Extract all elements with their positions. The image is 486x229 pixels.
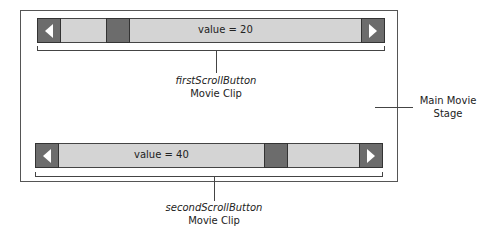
second-bracket-right-tick bbox=[382, 172, 383, 177]
right-arrow-icon bbox=[366, 149, 376, 163]
first-instance-name: firstScrollButton bbox=[166, 74, 266, 87]
first-bracket-right-tick bbox=[384, 46, 385, 51]
stage-label-line2: Stage bbox=[410, 107, 486, 120]
first-bracket-left-tick bbox=[37, 46, 38, 51]
second-scroll-button-clip: value = 40 bbox=[35, 143, 383, 168]
first-value-text: value = 20 bbox=[198, 24, 253, 35]
stage-caption: Main Movie Stage bbox=[410, 94, 486, 120]
second-instance-name: secondScrollButton bbox=[159, 201, 269, 214]
first-scroll-button-clip: value = 20 bbox=[37, 18, 385, 43]
first-scroll-thumb[interactable] bbox=[106, 18, 130, 43]
first-right-arrow-button[interactable] bbox=[361, 18, 385, 43]
second-left-arrow-button[interactable] bbox=[35, 143, 59, 168]
second-type-label: Movie Clip bbox=[159, 214, 269, 227]
stage-label-line1: Main Movie bbox=[410, 94, 486, 107]
left-arrow-icon bbox=[42, 149, 52, 163]
second-bracket-stem bbox=[214, 177, 215, 201]
second-bracket-line bbox=[35, 176, 383, 177]
stage-pointer-line bbox=[375, 107, 413, 108]
first-clip-caption: firstScrollButton Movie Clip bbox=[166, 74, 266, 100]
second-right-arrow-button[interactable] bbox=[359, 143, 383, 168]
first-bracket-line bbox=[37, 50, 385, 51]
second-bracket-left-tick bbox=[35, 172, 36, 177]
second-scroll-thumb[interactable] bbox=[264, 143, 288, 168]
right-arrow-icon bbox=[368, 24, 378, 38]
first-left-arrow-button[interactable] bbox=[37, 18, 61, 43]
first-bracket-stem bbox=[216, 51, 217, 73]
second-value-text: value = 40 bbox=[134, 149, 189, 160]
first-type-label: Movie Clip bbox=[166, 87, 266, 100]
second-clip-caption: secondScrollButton Movie Clip bbox=[159, 201, 269, 227]
left-arrow-icon bbox=[44, 24, 54, 38]
